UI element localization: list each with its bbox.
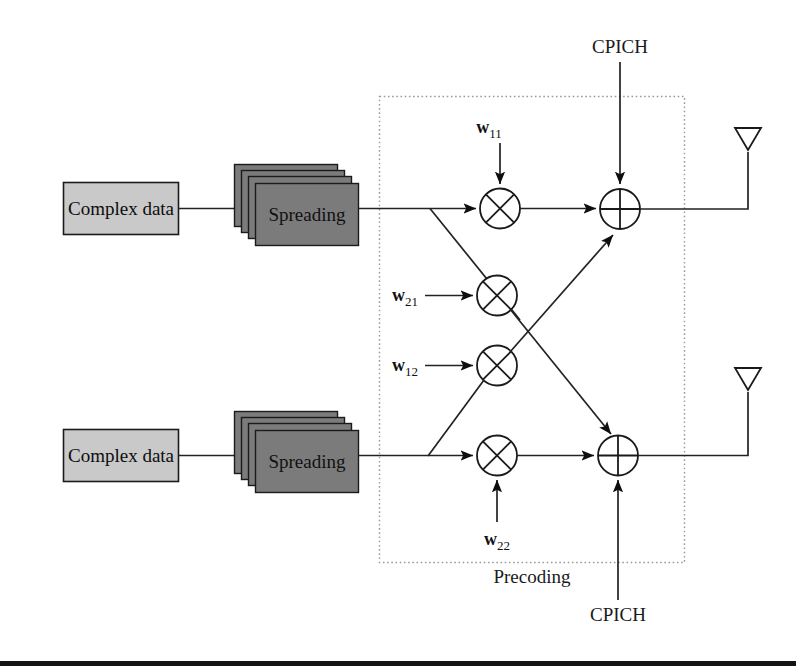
multiplier-w22 [477,436,517,476]
weight-label-w12: w12 [392,355,418,379]
spreading-stack-bottom: Spreading [235,412,359,493]
wire-adder-top-to-antenna [640,152,748,209]
weight-label-w11: w11 [476,117,502,141]
precoding-region-label: Precoding [493,566,571,587]
antenna-bottom [735,368,761,390]
cpich-label-top: CPICH [592,36,648,57]
spreading-label-top: Spreading [268,204,346,225]
wire-adder-bottom-to-antenna [638,392,748,456]
precoding-region-border [380,97,685,563]
weight-label-w21: w21 [392,285,418,309]
bottom-rule [0,661,796,666]
spreading-stack-top: Spreading [235,165,359,246]
precoding-block-diagram: Complex data Spreading w11 [0,0,796,669]
wire-mul21-to-adder-bottom [510,309,611,434]
complex-data-label-bottom: Complex data [68,445,175,466]
adder-top [600,189,640,229]
complex-data-label-top: Complex data [68,198,175,219]
multiplier-w11 [480,189,520,229]
wire-mul12-to-adder-top [510,235,613,352]
wire-bottom-branch-to-mul12 [428,380,484,456]
spreading-label-bottom: Spreading [268,451,346,472]
weight-label-w22: w22 [484,529,510,553]
antenna-top [735,128,761,150]
cpich-label-bottom: CPICH [590,604,646,625]
adder-bottom [598,436,638,476]
